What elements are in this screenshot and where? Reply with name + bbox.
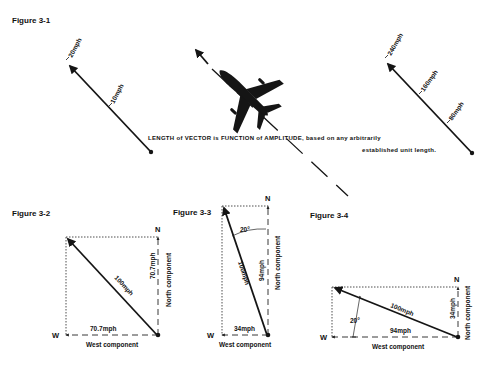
tick-label-10mph: 10mph — [109, 83, 126, 105]
figure-3-3-title: Figure 3-3 — [173, 208, 212, 217]
tick-label-20mph: 20mph — [67, 37, 84, 59]
figure-3-1: Figure 3-1 20mph 10mph — [12, 16, 474, 196]
vector-arrow — [70, 66, 151, 152]
figure-3-1-title: Figure 3-1 — [12, 16, 51, 25]
heading-arrow — [196, 50, 208, 64]
vector-diagram: Figure 3-1 20mph 10mph — [0, 0, 493, 371]
north-marker: N — [265, 194, 270, 203]
west-value: 94mph — [390, 327, 411, 335]
north-value: 94mph — [258, 260, 266, 281]
tick-label-80mph: 80mph — [447, 100, 466, 122]
west-label: West component — [372, 343, 425, 351]
figure-3-2: Figure 3-2 N W 100mph 70.7mph North comp… — [12, 209, 173, 349]
vector-240mph: 240mph 160mph 80mph — [385, 32, 474, 155]
west-value: 70.7mph — [90, 325, 116, 333]
resultant-vector — [68, 239, 157, 335]
north-label: North component — [464, 285, 472, 340]
resultant-label: 100mph — [113, 274, 136, 297]
west-marker: W — [207, 331, 215, 340]
tick-label-160mph: 160mph — [419, 68, 440, 93]
north-marker: N — [454, 275, 459, 284]
resultant-label: 100mph — [236, 260, 251, 286]
tick-label-240mph: 240mph — [386, 32, 405, 57]
north-label: North component — [165, 252, 173, 307]
vector-origin-dot — [470, 151, 474, 155]
vector-origin-dot — [149, 150, 153, 154]
figure-3-3: Figure 3-3 20° N W 100mph 94mph North co… — [173, 194, 282, 349]
west-label: West component — [219, 341, 272, 349]
west-value: 34mph — [234, 325, 255, 333]
vector-20mph: 20mph 10mph — [66, 37, 153, 155]
west-marker: W — [320, 333, 328, 342]
north-value: 34mph — [449, 298, 457, 319]
aircraft-heading-line — [196, 50, 348, 196]
west-marker: W — [52, 331, 60, 340]
north-value: 70.7mph — [149, 253, 157, 279]
angle-label: 20° — [240, 226, 250, 233]
caption-line-1: LENGTH of VECTOR is FUNCTION of AMPLITUD… — [148, 135, 381, 141]
west-label: West component — [86, 341, 139, 349]
north-marker: N — [155, 225, 160, 234]
figure-3-2-title: Figure 3-2 — [12, 209, 51, 218]
caption-line-2: established unit length. — [362, 147, 436, 153]
angle-label: 20° — [350, 317, 360, 324]
figure-3-4-title: Figure 3-4 — [310, 211, 349, 220]
airplane-silhouette-icon — [196, 46, 294, 143]
figure-3-4: Figure 3-4 20° N W 100mph 34mph North co… — [310, 211, 472, 351]
north-label: North component — [274, 235, 282, 290]
